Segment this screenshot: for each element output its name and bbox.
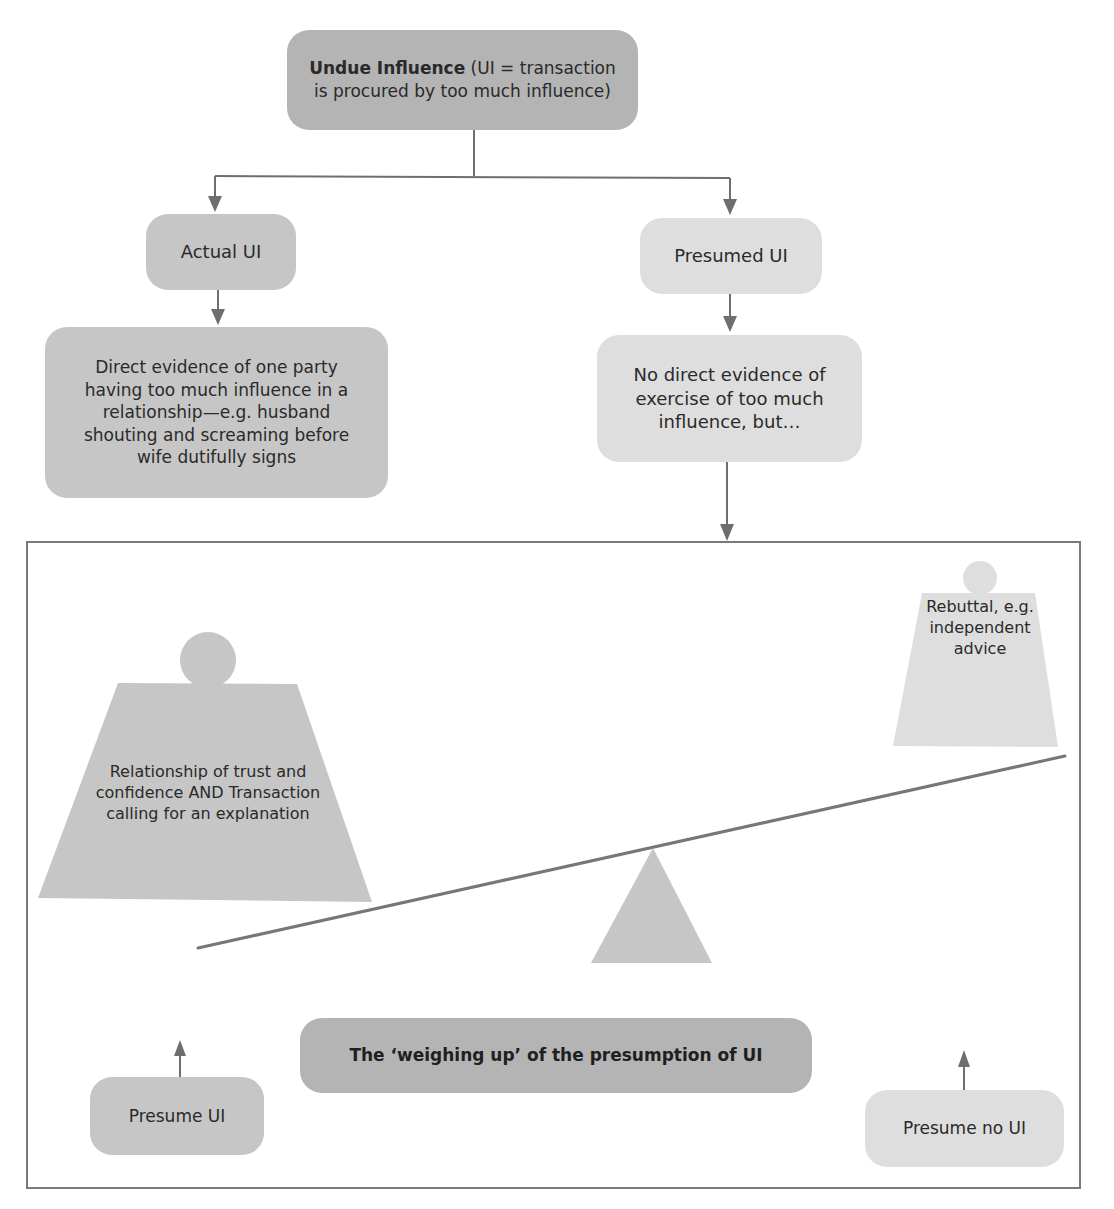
weighing-up-caption-box: The ‘weighing up’ of the presumption of … (300, 1018, 812, 1093)
actual-ui-detail-box: Direct evidence of one party having too … (45, 327, 388, 498)
actual-ui-label: Actual UI (181, 240, 262, 264)
undue-influence-box: Undue Influence (UI = transaction is pro… (287, 30, 638, 130)
presumed-ui-box: Presumed UI (640, 218, 822, 294)
presumed-ui-detail-text: No direct evidence of exercise of too mu… (627, 363, 832, 435)
presume-no-ui-label: Presume no UI (903, 1117, 1026, 1140)
presume-ui-label: Presume UI (129, 1105, 226, 1128)
right-weight-text: Rebuttal, e.g. independent advice (926, 597, 1034, 658)
presume-ui-box: Presume UI (90, 1077, 264, 1155)
arrow-to-actual-icon (208, 196, 222, 212)
actual-ui-box: Actual UI (146, 214, 296, 290)
presumed-ui-detail-box: No direct evidence of exercise of too mu… (597, 335, 862, 462)
arrow-to-presumed-icon (723, 199, 737, 215)
arrow-to-actual-detail-icon (211, 309, 225, 325)
right-weight-label: Rebuttal, e.g. independent advice (915, 597, 1045, 659)
undue-influence-diagram: Undue Influence (UI = transaction is pro… (0, 0, 1114, 1209)
actual-ui-detail-text: Direct evidence of one party having too … (65, 356, 368, 469)
left-weight-label: Relationship of trust and confidence AND… (92, 762, 324, 824)
undue-influence-heading: Undue Influence (309, 58, 465, 78)
arrow-up-presume-no-ui-icon (958, 1050, 970, 1067)
presume-no-ui-box: Presume no UI (865, 1090, 1064, 1167)
undue-influence-text: Undue Influence (UI = transaction is pro… (305, 57, 620, 102)
arrow-to-frame-icon (720, 524, 734, 541)
weighing-up-caption-text: The ‘weighing up’ of the presumption of … (349, 1044, 762, 1067)
presumed-ui-label: Presumed UI (674, 244, 788, 268)
arrow-up-presume-ui-icon (174, 1040, 186, 1056)
arrow-to-presumed-detail-icon (723, 316, 737, 332)
left-weight-text: Relationship of trust and confidence AND… (96, 762, 321, 823)
fulcrum-icon (591, 848, 712, 963)
top-connector (215, 130, 730, 199)
